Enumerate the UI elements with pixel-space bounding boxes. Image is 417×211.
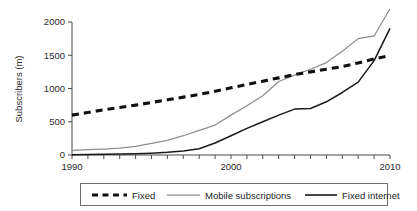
x-tick-label: 2010 [379,161,400,172]
plot-series-group [72,9,390,155]
y-tick-label: 500 [49,116,65,127]
x-axis-ticks [72,155,390,159]
legend-label-fixed-internet: Fixed internet [342,190,400,201]
chart-figure: 0500100015002000 Subscribers (m) 1990200… [0,0,417,211]
series-line-mobile-subscriptions [72,9,390,151]
y-tick-label: 0 [60,149,65,160]
series-line-fixed [72,56,390,116]
subscribers-line-chart: 0500100015002000 Subscribers (m) 1990200… [0,0,417,211]
legend-label-mobile-subscriptions: Mobile subscriptions [205,190,291,201]
y-axis-ticks [68,22,72,155]
y-axis-tick-labels: 0500100015002000 [44,16,65,160]
x-axis-tick-labels: 199020002010 [61,161,400,172]
y-axis-title: Subscribers (m) [13,55,24,122]
series-line-fixed-internet [72,28,390,154]
chart-legend: Fixed Mobile subscriptions Fixed interne… [81,184,400,206]
x-axis-group: 199020002010 [61,155,400,172]
y-tick-label: 1000 [44,83,65,94]
x-tick-label: 1990 [61,161,82,172]
y-axis-group: 0500100015002000 Subscribers (m) [13,16,72,160]
y-tick-label: 2000 [44,16,65,27]
legend-label-fixed: Fixed [132,190,155,201]
y-tick-label: 1500 [44,50,65,61]
x-tick-label: 2000 [220,161,241,172]
